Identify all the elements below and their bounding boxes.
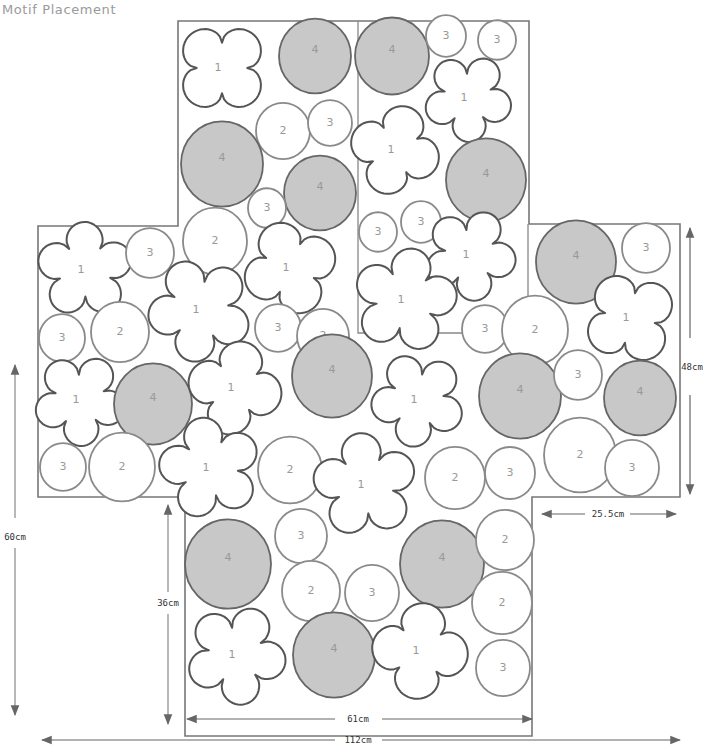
motif-circle: 3 — [255, 304, 301, 352]
motif-circle: 3 — [126, 228, 174, 278]
motif-label: 1 — [283, 261, 290, 274]
motif-shaded: 4 — [293, 612, 375, 697]
motif-shaded: 4 — [292, 334, 372, 417]
motif-label: 1 — [463, 248, 470, 261]
motif-circle: 3 — [275, 509, 327, 563]
motif-label: 1 — [78, 263, 85, 276]
motif-label: 3 — [375, 225, 382, 238]
motif-label: 2 — [499, 596, 506, 609]
motif-label: 4 — [439, 551, 446, 564]
motif-label: 2 — [308, 584, 315, 597]
motif-shaded: 4 — [181, 121, 263, 206]
motif-label: 3 — [575, 368, 582, 381]
motif-label: 1 — [461, 91, 468, 104]
motif-circle: 2 — [476, 510, 534, 570]
motif-label: 1 — [358, 478, 365, 491]
dimension-total-width: 112cm — [42, 735, 680, 745]
motif-label: 4 — [517, 383, 524, 396]
motif-circle: 3 — [462, 305, 508, 353]
motif-label: 2 — [287, 463, 294, 476]
motif-circle: 3 — [485, 447, 535, 499]
motif-circle: 2 — [256, 103, 310, 159]
motif-circle: 2 — [89, 433, 155, 502]
motif-label: 3 — [482, 322, 489, 335]
motif-label: 2 — [452, 471, 459, 484]
motif-circle: 3 — [39, 314, 85, 362]
motif-label: 2 — [119, 460, 126, 473]
motif-label: 3 — [494, 33, 501, 46]
motif-label: 4 — [150, 391, 157, 404]
motif-circle: 3 — [622, 223, 670, 273]
motif-label: 4 — [329, 363, 336, 376]
motif-shaded: 4 — [400, 520, 484, 607]
motif-label: 1 — [411, 393, 418, 406]
motif-label: 3 — [275, 321, 282, 334]
dim-label-61cm: 61cm — [347, 714, 369, 724]
dim-label-60cm: 60cm — [4, 532, 26, 542]
motif-label: 1 — [215, 61, 222, 74]
motif-label: 3 — [369, 586, 376, 599]
motif-label: 2 — [577, 448, 584, 461]
motif-label: 2 — [502, 533, 509, 546]
motif-circle: 3 — [359, 212, 397, 252]
motif-placement-diagram: 1443312341443233143131113232321141414343… — [0, 0, 705, 753]
motif-label: 3 — [298, 529, 305, 542]
dim-label-36cm: 36cm — [157, 598, 179, 608]
motif-circle: 2 — [258, 437, 322, 504]
motif-circle: 3 — [345, 565, 399, 621]
motif-circle: 2 — [91, 302, 149, 362]
motif-shaded: 4 — [604, 361, 676, 436]
motif-label: 4 — [637, 385, 644, 398]
motif-label: 4 — [331, 642, 338, 655]
motif-circle: 3 — [248, 188, 286, 228]
motif-label: 4 — [312, 43, 319, 56]
dimension-side-height: 48cm — [681, 228, 703, 494]
dim-label-48cm: 48cm — [681, 362, 703, 372]
dimension-right-width: 25.5cm — [542, 509, 676, 519]
motif-label: 3 — [147, 246, 154, 259]
motif-shaded: 4 — [479, 353, 561, 438]
motif-label: 2 — [532, 323, 539, 336]
motif-label: 3 — [264, 201, 271, 214]
motif-label: 1 — [388, 143, 395, 156]
motif-label: 3 — [500, 661, 507, 674]
motif-label: 4 — [573, 249, 580, 262]
motif-label: 3 — [327, 116, 334, 129]
dim-label-112cm: 112cm — [344, 735, 371, 745]
motif-label: 1 — [193, 303, 200, 316]
motif-label: 1 — [413, 644, 420, 657]
motif-label: 1 — [73, 393, 80, 406]
motif-label: 3 — [507, 466, 514, 479]
motif-label: 2 — [212, 234, 219, 247]
motif-label: 1 — [228, 381, 235, 394]
motif-circle: 3 — [40, 443, 86, 491]
motif-label: 1 — [229, 648, 236, 661]
motif-label: 4 — [225, 551, 232, 564]
motif-shaded: 4 — [185, 519, 271, 608]
motif-circle: 3 — [478, 20, 516, 60]
motif-label: 3 — [643, 241, 650, 254]
motif-circle: 3 — [605, 440, 659, 496]
motif-label: 3 — [443, 29, 450, 42]
motif-circle: 2 — [425, 447, 485, 509]
motif-shaded: 4 — [355, 18, 429, 95]
motif-label: 4 — [483, 167, 490, 180]
motif-flower: 1 — [588, 276, 672, 360]
motif-label: 3 — [59, 331, 66, 344]
motif-shaded: 4 — [446, 138, 526, 221]
motif-circle: 3 — [476, 640, 530, 696]
motif-label: 1 — [398, 293, 405, 306]
motif-label: 3 — [629, 461, 636, 474]
motif-label: 4 — [219, 151, 226, 164]
motif-label: 4 — [317, 180, 324, 193]
motif-label: 1 — [203, 461, 210, 474]
motif-shaded: 4 — [284, 156, 356, 231]
dimension-bottom-height: 36cm — [157, 505, 179, 724]
dimension-total-height: 60cm — [4, 365, 26, 715]
motif-label: 2 — [280, 124, 287, 137]
motif-label: 3 — [60, 460, 67, 473]
dim-label-25-5cm: 25.5cm — [592, 509, 625, 519]
motif-circle: 2 — [472, 572, 532, 634]
motif-circle: 2 — [544, 418, 616, 493]
motif-shaded: 4 — [279, 19, 351, 94]
